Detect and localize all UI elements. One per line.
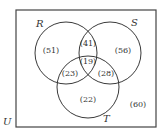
- set-s-label: S: [131, 17, 138, 28]
- set-r-label: R: [35, 18, 44, 29]
- region-r-and-t: (23): [62, 69, 78, 78]
- universe-label: U: [3, 116, 12, 127]
- region-r-only: (51): [43, 46, 59, 55]
- region-s-and-t: (28): [98, 69, 114, 78]
- region-t-only: (22): [80, 95, 96, 104]
- region-r-and-s: (41): [80, 39, 96, 48]
- region-r-s-t: (19): [80, 57, 96, 66]
- region-s-only: (56): [115, 46, 131, 55]
- venn-diagram: R S T U (51) (41) (56) (19) (23) (28) (2…: [0, 0, 158, 130]
- region-outside: (60): [130, 100, 146, 109]
- set-t-label: T: [103, 113, 111, 124]
